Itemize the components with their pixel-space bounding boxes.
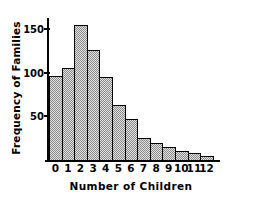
histogram-bar: [162, 147, 176, 161]
histogram-figure: Frequency of Families 50100150 012345678…: [0, 0, 256, 200]
x-tick-label: 7: [140, 162, 147, 174]
x-tick-label: 3: [89, 162, 96, 174]
y-tick-label: 50: [16, 111, 44, 122]
histogram-bar: [175, 151, 189, 161]
x-axis-title: Number of Children: [46, 180, 216, 192]
histogram-bar: [74, 25, 88, 161]
histogram-bar: [112, 105, 126, 161]
histogram-bar: [99, 77, 113, 161]
y-axis-title: Frequency of Families: [10, 18, 22, 158]
histogram-bar: [87, 50, 101, 161]
histogram-bar: [137, 138, 151, 161]
y-tick: 50: [12, 116, 44, 117]
plot-area: Frequency of Families 50100150 012345678…: [0, 0, 256, 200]
x-tick-label: 9: [165, 162, 172, 174]
histogram-bar: [200, 156, 214, 161]
y-tick: 100: [12, 73, 44, 74]
y-tick-label: 100: [16, 67, 44, 78]
histogram-bar: [188, 153, 202, 161]
x-tick-label: 12: [199, 162, 214, 174]
x-tick-label: 6: [127, 162, 134, 174]
x-tick-label: 4: [102, 162, 109, 174]
x-tick-label: 2: [77, 162, 84, 174]
y-tick-label: 150: [16, 24, 44, 35]
x-tick-label: 0: [52, 162, 59, 174]
y-tick: 150: [12, 29, 44, 30]
x-tick-label: 1: [64, 162, 71, 174]
histogram-bar: [49, 76, 63, 161]
histogram-bar: [150, 143, 164, 161]
histogram-bar: [62, 68, 76, 161]
histogram-bar: [125, 119, 139, 161]
x-tick-label: 5: [115, 162, 122, 174]
x-tick-label: 8: [152, 162, 159, 174]
